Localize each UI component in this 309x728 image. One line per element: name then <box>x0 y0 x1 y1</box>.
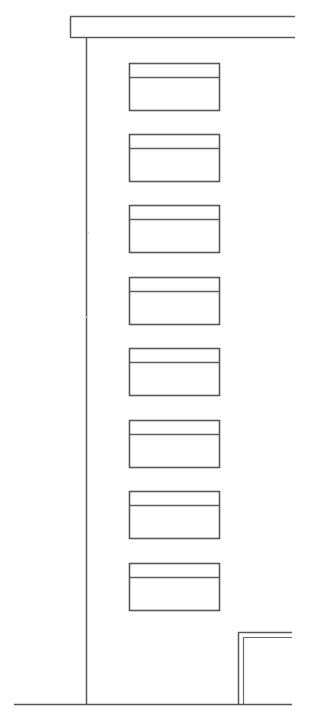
scan-speck <box>87 232 89 234</box>
window-frame <box>130 64 220 111</box>
window-frame <box>130 278 220 325</box>
window-frame <box>130 492 220 539</box>
scan-speck <box>86 316 88 318</box>
window-floor-8 <box>130 64 220 111</box>
window-frame <box>130 206 220 253</box>
window-floor-6 <box>130 206 220 253</box>
drawing-sheet <box>0 0 309 728</box>
window-floor-7 <box>130 135 220 182</box>
window-floor-3 <box>130 421 220 468</box>
building-elevation-drawing <box>0 0 309 728</box>
window-floor-4 <box>130 349 220 396</box>
window-floor-5 <box>130 278 220 325</box>
window-frame <box>130 135 220 182</box>
window-frame <box>130 349 220 396</box>
window-floor-1 <box>130 564 220 611</box>
window-frame <box>130 421 220 468</box>
roof-band-fill <box>70 16 295 37</box>
roof-parapet-band <box>70 16 295 38</box>
window-frame <box>130 564 220 611</box>
window-floor-2 <box>130 492 220 539</box>
